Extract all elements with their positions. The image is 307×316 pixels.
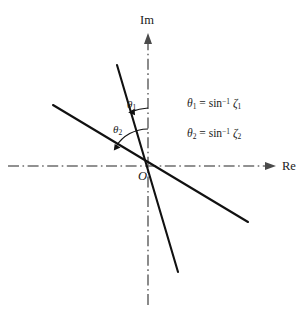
theta-2-equation: θ2 = sin−1 ζ2 xyxy=(187,128,241,141)
eq2-function: sin xyxy=(209,127,222,139)
theta-2-subscript: 2 xyxy=(118,128,122,137)
real-axis-label: Re xyxy=(282,160,296,173)
complex-plane-figure: Im Re O θ1 θ2 θ1 = sin−1 ζ1 θ2 = sin−1 ζ… xyxy=(0,0,307,316)
theta-1-equation: θ1 = sin−1 ζ1 xyxy=(187,98,241,111)
imaginary-axis-label: Im xyxy=(140,14,154,27)
eq1-exponent: −1 xyxy=(222,97,230,106)
imaginary-axis-arrowhead xyxy=(144,33,152,44)
eq1-lhs-subscript: 1 xyxy=(193,102,197,111)
eq2-lhs-subscript: 2 xyxy=(193,132,197,141)
theta-1-subscript: 1 xyxy=(132,103,136,112)
angle-label-theta-2: θ2 xyxy=(113,124,122,136)
angle-label-theta-1: θ1 xyxy=(127,99,136,111)
eq2-arg-subscript: 2 xyxy=(238,132,242,141)
origin-label: O xyxy=(138,170,147,183)
eq2-exponent: −1 xyxy=(222,127,230,136)
damping-line-theta-2 xyxy=(53,105,248,222)
eq1-arg-subscript: 1 xyxy=(238,102,242,111)
eq2-operator: = xyxy=(199,127,206,139)
real-axis-arrowhead xyxy=(265,162,276,170)
eq1-function: sin xyxy=(209,97,222,109)
eq1-operator: = xyxy=(199,97,206,109)
figure-canvas xyxy=(0,0,307,316)
